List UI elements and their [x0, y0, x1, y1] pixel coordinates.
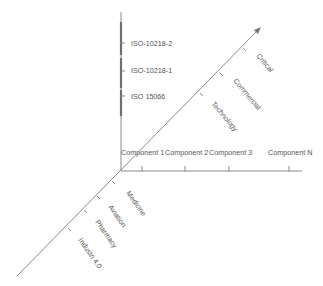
- domain-label-critical: Critical: [254, 52, 275, 75]
- domain-label-technology: Technology: [209, 100, 240, 134]
- diagonal-tick: [84, 210, 87, 213]
- diagonal-tick: [68, 228, 71, 231]
- domain-label-aviation: Aviation: [106, 203, 128, 229]
- standard-label-iso-15066: ISO 15066: [131, 92, 165, 101]
- diagonal-tick: [200, 93, 203, 96]
- horizontal-axis: [121, 166, 302, 171]
- component-label-2: Component 2: [165, 148, 208, 157]
- component-label-1: Component 1: [121, 148, 164, 157]
- diagonal-tick: [97, 196, 100, 199]
- domain-label-pharmacy: Pharmacy: [93, 218, 119, 250]
- domain-label-commercial: Commercial: [231, 77, 263, 112]
- component-label-n: Component N: [268, 148, 312, 157]
- three-axis-diagram: ISO-10218-2 ISO-10218-1 ISO 15066 Compon…: [0, 0, 323, 286]
- standard-label-iso-10218-2: ISO-10218-2: [131, 39, 172, 48]
- standard-label-iso-10218-1: ISO-10218-1: [131, 66, 172, 75]
- diagonal-tick: [220, 73, 223, 76]
- domain-label-medicine: Medicine: [124, 189, 148, 218]
- diagonal-tick: [112, 181, 115, 184]
- diagonal-tick: [243, 48, 246, 51]
- component-label-3: Component 3: [209, 148, 252, 157]
- domain-label-industri-4-0: Industri 4.0: [76, 236, 104, 270]
